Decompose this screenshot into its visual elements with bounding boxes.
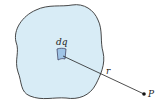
charge-distribution-diagram: dq r P	[0, 0, 158, 111]
r-label: r	[106, 66, 111, 76]
charge-element-dq	[57, 48, 66, 60]
p-label: P	[147, 89, 155, 99]
point-p-dot	[142, 92, 146, 96]
dq-label: dq	[56, 37, 68, 47]
